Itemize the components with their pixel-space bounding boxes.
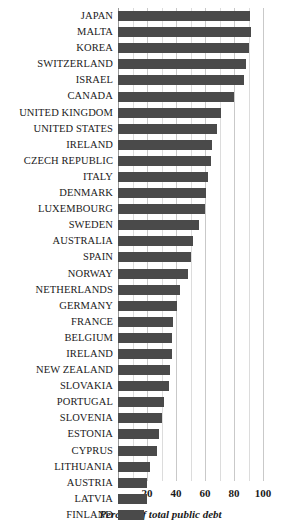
category-label: CYPRUS (0, 443, 113, 459)
value-axis-tick-label: 100 (255, 487, 272, 499)
bar (118, 494, 147, 504)
category-label: LUXEMBOURG (0, 201, 113, 217)
bar-row (118, 137, 265, 153)
bar (118, 156, 211, 166)
bar-row (118, 217, 265, 233)
bar-row (118, 201, 265, 217)
bar-chart: JAPANMALTAKOREASWITZERLANDISRAELCANADAUN… (0, 0, 281, 532)
bar-row (118, 105, 265, 121)
bar (118, 140, 212, 150)
category-label: NORWAY (0, 266, 113, 282)
bar-row (118, 394, 265, 410)
category-label: SWITZERLAND (0, 56, 113, 72)
bar (118, 349, 172, 359)
bar-rows (118, 8, 265, 481)
category-label: NETHERLANDS (0, 282, 113, 298)
bar-row (118, 233, 265, 249)
category-label: SLOVENIA (0, 410, 113, 426)
bar-row (118, 410, 265, 426)
bar-row (118, 459, 265, 475)
category-label: GERMANY (0, 298, 113, 314)
category-label: NEW ZEALAND (0, 362, 113, 378)
bar-row (118, 426, 265, 442)
bar (118, 413, 162, 423)
bar (118, 301, 177, 311)
bar-row (118, 249, 265, 265)
bar-row (118, 346, 265, 362)
bar (118, 188, 206, 198)
value-axis-tick-label: 40 (171, 487, 182, 499)
bar (118, 365, 170, 375)
category-label: AUSTRIA (0, 475, 113, 491)
bar (118, 236, 193, 246)
bar-row (118, 121, 265, 137)
bar-row (118, 298, 265, 314)
category-label: SPAIN (0, 249, 113, 265)
bar-row (118, 88, 265, 104)
bar (118, 124, 217, 134)
bar (118, 510, 144, 520)
bar (118, 462, 150, 472)
bar (118, 252, 191, 262)
category-label: SWEDEN (0, 217, 113, 233)
bar-row (118, 443, 265, 459)
bar (118, 381, 169, 391)
category-label: ISRAEL (0, 72, 113, 88)
bar (118, 220, 199, 230)
bar-row (118, 169, 265, 185)
bar (118, 59, 246, 69)
bar-row (118, 378, 265, 394)
category-label: ESTONIA (0, 426, 113, 442)
bar (118, 333, 172, 343)
bar-row (118, 8, 265, 24)
bar-row (118, 72, 265, 88)
category-label: KOREA (0, 40, 113, 56)
bar (118, 27, 251, 37)
category-label: AUSTRALIA (0, 233, 113, 249)
category-label: FRANCE (0, 314, 113, 330)
bar (118, 75, 244, 85)
category-label: PORTUGAL (0, 394, 113, 410)
category-label: CZECH REPUBLIC (0, 153, 113, 169)
bar-row (118, 40, 265, 56)
category-label: LATVIA (0, 491, 113, 507)
bar-row (118, 24, 265, 40)
bar (118, 285, 180, 295)
bar (118, 172, 208, 182)
bar (118, 317, 173, 327)
value-axis-tick-label: 80 (229, 487, 240, 499)
bar (118, 11, 250, 21)
bar-row (118, 314, 265, 330)
bar-row (118, 153, 265, 169)
bar (118, 43, 249, 53)
bar-row (118, 185, 265, 201)
category-label: LITHUANIA (0, 459, 113, 475)
bar (118, 478, 147, 488)
category-label: UNITED KINGDOM (0, 105, 113, 121)
bar (118, 108, 221, 118)
category-label: DENMARK (0, 185, 113, 201)
category-label: JAPAN (0, 8, 113, 24)
bar-row (118, 56, 265, 72)
category-label: BELGIUM (0, 330, 113, 346)
category-axis-labels: JAPANMALTAKOREASWITZERLANDISRAELCANADAUN… (0, 8, 113, 481)
bar (118, 204, 205, 214)
bar-row (118, 330, 265, 346)
category-label: IRELAND (0, 346, 113, 362)
value-axis-tick-label: 60 (200, 487, 211, 499)
category-label: IRELAND (0, 137, 113, 153)
category-label: CANADA (0, 88, 113, 104)
bar (118, 397, 164, 407)
bar-row (118, 282, 265, 298)
category-label: UNITED STATES (0, 121, 113, 137)
plot-area (118, 8, 265, 481)
bar-row (118, 266, 265, 282)
category-label: SLOVAKIA (0, 378, 113, 394)
bar-row (118, 362, 265, 378)
category-label: ITALY (0, 169, 113, 185)
bar (118, 92, 234, 102)
bar (118, 446, 157, 456)
category-label: MALTA (0, 24, 113, 40)
bar (118, 269, 188, 279)
bar (118, 429, 159, 439)
